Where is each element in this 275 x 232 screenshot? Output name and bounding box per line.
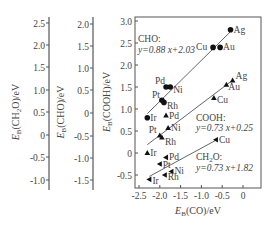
y-tick-label: 2.0 — [77, 20, 89, 30]
y-tick-label: 2.5 — [33, 19, 45, 29]
cho-axis: 2.01.51.00.50-0.5-1.0-1.5 EB(CHO)/eV — [55, 17, 93, 190]
point-label: Pt — [152, 90, 160, 100]
point-label: Au — [228, 82, 240, 92]
cho-fit-label: CHO: — [138, 34, 161, 44]
data-point-marker — [145, 115, 151, 121]
point-label: Ir — [150, 148, 157, 158]
cho-axis-label: EB(CHO)/eV — [55, 85, 68, 140]
ch2o-fit-equation: y=0.73 x+1.82 — [195, 163, 253, 173]
data-point-marker — [217, 45, 223, 51]
y-tick-label: -0.5 — [30, 153, 45, 163]
y-tick-label: 2.0 — [33, 41, 45, 51]
y-tick-label: 0.5 — [77, 86, 89, 96]
x-tick-label: -0.5 — [215, 191, 230, 201]
data-point-marker — [210, 45, 216, 51]
y-tick-label: 0.5 — [33, 108, 45, 118]
data-point-marker — [145, 150, 151, 155]
x-tick-label: -1.5 — [173, 191, 188, 201]
x-tick-label: -2.5 — [131, 191, 146, 201]
point-label: Ni — [171, 123, 181, 133]
point-label: Pd — [155, 76, 165, 86]
ch2o-axis-label: EB(CH2O)/eV — [10, 83, 23, 141]
data-point-marker — [228, 27, 234, 33]
data-point-marker — [157, 161, 162, 167]
x-tick-label: 0 — [241, 191, 246, 201]
point-label: Ir — [150, 113, 157, 123]
point-label: Rh — [168, 172, 179, 182]
y-tick-label: -0.5 — [74, 132, 89, 142]
x-tick-label: -1.0 — [194, 191, 209, 201]
y-tick-label: 0 — [84, 109, 89, 119]
y-tick-label: 2.0 — [120, 61, 132, 71]
y-tick-label: 3.0 — [120, 17, 132, 27]
y-tick-label: 1.5 — [77, 42, 89, 52]
data-point-marker — [162, 172, 167, 178]
y-tick-label: 1.5 — [120, 83, 132, 93]
point-label: Au — [223, 42, 235, 52]
point-label: Cu — [219, 135, 230, 145]
point-label: Ag — [234, 25, 246, 35]
data-point-marker — [167, 84, 173, 90]
cooh-fit-equation: y=0.73 x+0.25 — [195, 123, 253, 133]
point-label: Ir — [152, 176, 159, 186]
y-tick-label: -1.0 — [30, 176, 45, 186]
cho-fit-equation: y=0.88 x+2.03 — [137, 45, 195, 55]
x-tick-label: -2.0 — [152, 191, 167, 201]
cooh-fit-label: COOH: — [196, 113, 226, 123]
y-tick-label: 0 — [127, 149, 132, 159]
y-tick-label: 0 — [40, 131, 45, 141]
cooh-axis-label: EB(COOH)/eV — [101, 71, 114, 133]
point-label: Cu — [196, 42, 207, 52]
data-point-marker — [161, 100, 167, 106]
y-tick-label: -0.5 — [117, 171, 132, 181]
point-label: Cu — [217, 95, 228, 105]
y-tick-label: 1.0 — [33, 86, 45, 96]
point-label: Pd — [169, 111, 179, 121]
data-point-marker — [146, 177, 151, 183]
point-label: Ag — [236, 71, 248, 81]
y-tick-label: 1.0 — [120, 105, 132, 115]
y-tick-label: 1.5 — [33, 63, 45, 73]
y-tick-label: 1.0 — [77, 64, 89, 74]
point-label: Pt — [149, 125, 157, 135]
x-axis-label: EB(CO)/eV — [174, 205, 222, 218]
y-tick-label: 0.5 — [120, 127, 132, 137]
y-tick-label: -1.5 — [74, 176, 89, 186]
main-plot: 3.02.52.01.51.00.50-0.5 -2.5-2.0-1.5-1.0… — [101, 17, 261, 219]
point-label: Pt — [163, 160, 171, 170]
y-tick-label: 2.5 — [120, 39, 132, 49]
scatter-figure: 2.52.01.51.00.50-0.5-1.0 EB(CH2O)/eV 2.0… — [0, 0, 275, 232]
y-tick-label: -1.0 — [74, 154, 89, 164]
ch2o-axis: 2.52.01.51.00.50-0.5-1.0 EB(CH2O)/eV — [10, 17, 49, 190]
point-label: Rh — [165, 137, 176, 147]
data-point-marker — [163, 113, 169, 118]
point-label: Ni — [173, 85, 183, 95]
